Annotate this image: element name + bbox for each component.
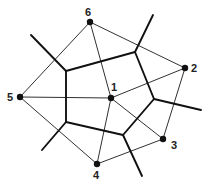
site-point-6: [87, 19, 93, 25]
site-point-5: [17, 94, 23, 100]
site-point-3: [160, 136, 166, 142]
site-point-2: [182, 65, 188, 71]
site-label-2: 2: [191, 62, 197, 74]
site-label-6: 6: [85, 6, 91, 18]
site-label-3: 3: [171, 139, 177, 151]
site-label-1: 1: [111, 81, 117, 93]
voronoi-edge-B-C: [135, 52, 154, 99]
voronoi-delaunay-diagram: 123456: [0, 0, 207, 184]
voronoi-edge-A-B: [66, 52, 135, 71]
voronoi-edge-C-D: [123, 99, 154, 135]
delaunay-triangulation: [20, 22, 185, 164]
site-point-1: [108, 95, 114, 101]
voronoi-ray-D: [123, 135, 142, 176]
voronoi-edge-D-E: [66, 122, 123, 135]
site-label-5: 5: [7, 91, 13, 103]
site-label-4: 4: [93, 169, 100, 181]
sites: 123456: [7, 6, 197, 181]
site-point-4: [94, 161, 100, 167]
voronoi-ray-B: [135, 15, 153, 52]
voronoi-ray-C: [154, 99, 201, 110]
